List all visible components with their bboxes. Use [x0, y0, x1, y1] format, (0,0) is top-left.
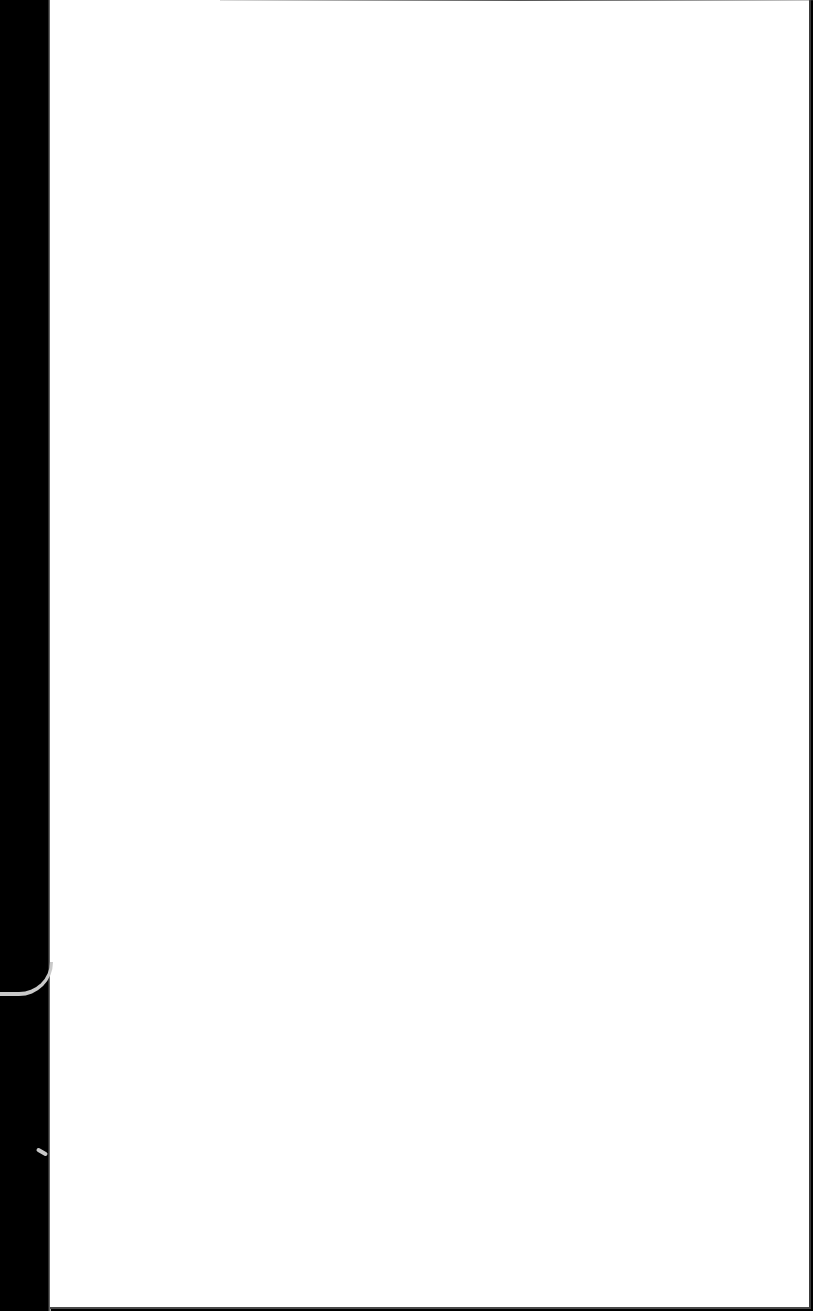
page-top-edge	[220, 0, 813, 1]
blank-page	[50, 0, 811, 1309]
scan-background	[0, 0, 813, 1311]
paper-fiber-artifact-small	[36, 1147, 48, 1156]
paper-fiber-artifact	[0, 962, 53, 996]
